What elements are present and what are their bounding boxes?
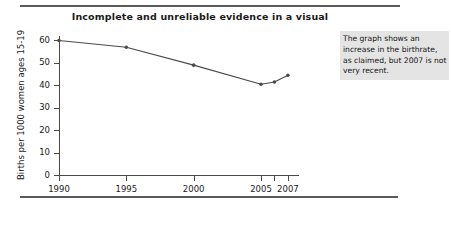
data-point-1995 — [125, 45, 129, 49]
series-line — [59, 40, 288, 84]
series-markers — [57, 39, 290, 86]
bottom-horizontal-rule — [20, 196, 398, 198]
data-point-2007 — [286, 73, 290, 77]
data-point-2006 — [273, 80, 277, 84]
data-point-2000 — [192, 63, 196, 67]
data-point-2005 — [259, 82, 263, 86]
callout-note: The graph shows an increase in the birth… — [340, 31, 449, 80]
data-point-1990 — [57, 39, 61, 43]
